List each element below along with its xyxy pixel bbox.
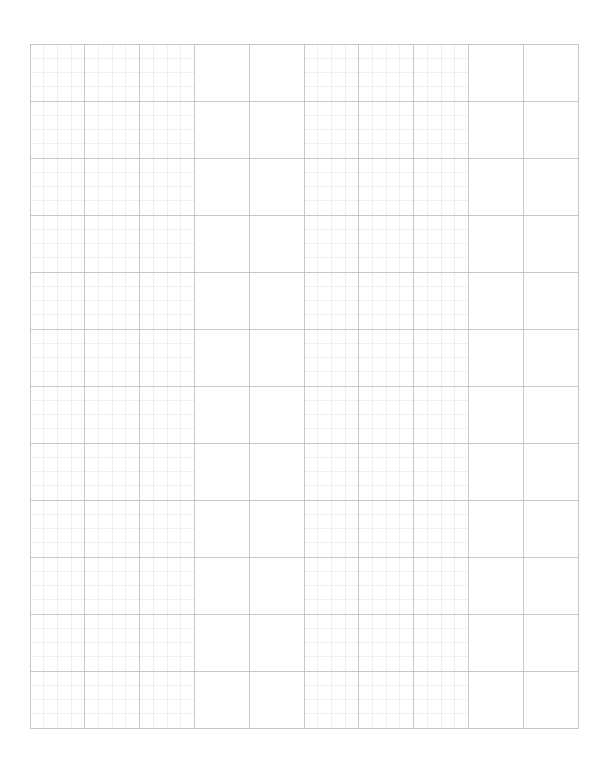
graph-paper-figure — [0, 0, 607, 763]
page-root — [0, 0, 607, 763]
grid-svg — [0, 0, 607, 763]
page-background — [0, 0, 607, 763]
